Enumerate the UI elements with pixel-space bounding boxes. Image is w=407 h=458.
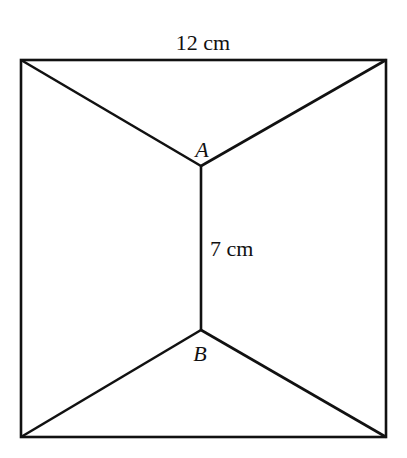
geometry-figure: 12 cm 7 cm A B <box>0 0 407 458</box>
point-b-label: B <box>193 341 206 366</box>
top-dimension-label: 12 cm <box>176 30 230 55</box>
segment-bottom-right-to-b <box>201 330 386 437</box>
segment-bottom-left-to-b <box>21 330 201 437</box>
point-a-label: A <box>193 137 209 162</box>
segment-top-left-to-a <box>21 60 201 166</box>
segment-top-right-to-a <box>201 60 386 166</box>
outer-rectangle <box>21 60 386 437</box>
middle-dimension-label: 7 cm <box>210 236 253 261</box>
